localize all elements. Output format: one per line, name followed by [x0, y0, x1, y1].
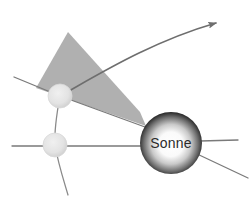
- sun-body-group: Sonne: [140, 112, 202, 174]
- diagram-canvas: Sonne: [0, 0, 252, 203]
- planet-upper: [48, 84, 72, 108]
- sun-label: Sonne: [150, 135, 191, 151]
- planet-lower: [43, 133, 67, 157]
- astronomy-diagram: Sonne: [0, 0, 252, 203]
